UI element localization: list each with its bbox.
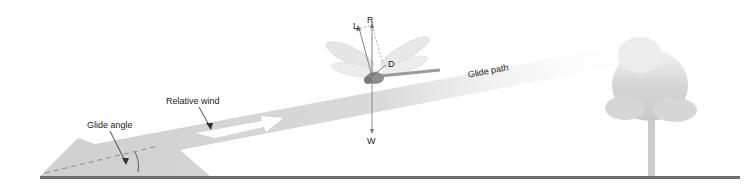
glide-angle-label: Glide angle [87, 120, 133, 130]
tree-illustration [605, 37, 697, 176]
weight-label: W [367, 136, 376, 146]
resultant-label: R [367, 15, 374, 25]
lift-label: L [353, 21, 358, 31]
ground-line [40, 176, 740, 179]
dragonfly [323, 32, 440, 84]
drag-label: D [388, 59, 395, 69]
glide-diagram [0, 0, 753, 184]
relative-wind-label: Relative wind [166, 96, 220, 106]
